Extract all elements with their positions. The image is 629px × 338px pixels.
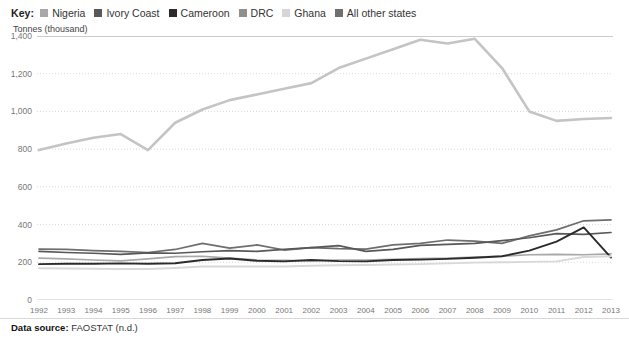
x-tick-label: 1993	[51, 306, 81, 315]
x-tick-label: 1998	[187, 306, 217, 315]
data-source-label: Data source:	[11, 322, 69, 333]
legend-label-ghana: Ghana	[294, 7, 326, 19]
x-tick-label: 2012	[569, 306, 599, 315]
y-tick-label: 1,000	[2, 106, 32, 116]
x-tick-label: 2008	[460, 306, 490, 315]
legend-swatch-nigeria	[40, 9, 48, 17]
legend-label-ivory-coast: Ivory Coast	[106, 7, 159, 19]
legend-swatch-drc	[239, 9, 247, 17]
legend-item-nigeria: Nigeria	[40, 7, 85, 19]
data-source: Data source: FAOSTAT (n.d.)	[11, 322, 138, 333]
legend-swatch-all-other-states	[335, 9, 343, 17]
legend-key-label: Key:	[11, 7, 34, 19]
x-tick-label: 1996	[133, 306, 163, 315]
x-tick-label: 2013	[596, 306, 626, 315]
x-tick-label: 2010	[514, 306, 544, 315]
legend-swatch-cameroon	[169, 9, 177, 17]
x-tick-label: 1994	[78, 306, 108, 315]
plot-area	[37, 36, 613, 300]
y-tick-label: 800	[2, 144, 32, 154]
x-tick-label: 2007	[433, 306, 463, 315]
data-source-value: FAOSTAT (n.d.)	[71, 322, 138, 333]
x-tick-label: 2000	[242, 306, 272, 315]
legend-item-ghana: Ghana	[282, 7, 326, 19]
y-tick-label: 1,200	[2, 69, 32, 79]
x-tick-label: 1992	[24, 306, 54, 315]
legend-item-ivory-coast: Ivory Coast	[94, 7, 159, 19]
y-tick-label: 400	[2, 220, 32, 230]
x-tick-label: 2005	[378, 306, 408, 315]
chart-page: Key: Nigeria Ivory Coast Cameroon DRC Gh…	[0, 0, 629, 338]
legend-label-all-other-states: All other states	[347, 7, 416, 19]
legend-swatch-ivory-coast	[94, 9, 102, 17]
series-line-ivory-coast	[39, 39, 611, 150]
legend-label-cameroon: Cameroon	[181, 7, 230, 19]
legend-item-cameroon: Cameroon	[169, 7, 230, 19]
x-tick-label: 1997	[160, 306, 190, 315]
legend-item-all-other-states: All other states	[335, 7, 416, 19]
x-tick-label: 1995	[106, 306, 136, 315]
chart-svg	[37, 36, 613, 300]
x-tick-label: 2011	[542, 306, 572, 315]
x-tick-label: 2003	[324, 306, 354, 315]
x-tick-label: 2001	[269, 306, 299, 315]
x-tick-label: 2006	[405, 306, 435, 315]
x-tick-label: 1999	[215, 306, 245, 315]
y-tick-label: 200	[2, 257, 32, 267]
y-tick-label: 1,400	[2, 31, 32, 41]
legend-item-drc: DRC	[239, 7, 274, 19]
x-tick-label: 2004	[351, 306, 381, 315]
legend-swatch-ghana	[282, 9, 290, 17]
y-tick-label: 0	[2, 295, 32, 305]
legend-label-drc: DRC	[251, 7, 274, 19]
y-tick-label: 600	[2, 182, 32, 192]
x-tick-label: 2009	[487, 306, 517, 315]
x-tick-label: 2002	[296, 306, 326, 315]
footer-divider	[0, 318, 629, 319]
chart-legend: Key: Nigeria Ivory Coast Cameroon DRC Gh…	[11, 5, 425, 21]
legend-label-nigeria: Nigeria	[52, 7, 85, 19]
